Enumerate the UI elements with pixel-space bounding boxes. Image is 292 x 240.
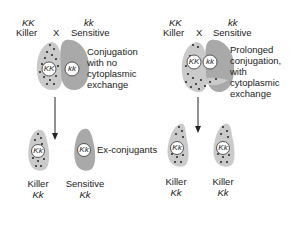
left-cross-symbol: X	[53, 28, 59, 38]
right-nucleus-sensitive: kk	[203, 57, 217, 67]
left-progeny1-phenotype: Killer	[22, 179, 54, 189]
left-progeny2-genotype: Kk	[64, 190, 106, 200]
right-process-line5: exchange	[230, 89, 271, 99]
left-parent2-phenotype: Sensitive	[71, 28, 110, 38]
right-process-line4: cytoplasmic	[230, 78, 280, 88]
right-progeny1-nucleus: Kk	[170, 143, 184, 153]
left-process-line3: cytoplasmic	[87, 69, 137, 79]
right-progeny1-phenotype: Killer	[160, 177, 192, 187]
left-progeny1-genotype: Kk	[22, 190, 54, 200]
left-process-line4: exchange	[87, 80, 128, 90]
ex-conjugants-label: Ex-conjugants	[97, 145, 157, 155]
right-parent1-phenotype: Killer	[163, 28, 184, 38]
left-nucleus-killer: KK	[42, 64, 56, 74]
right-cross-symbol: X	[196, 28, 202, 38]
left-progeny1-nucleus: Kk	[31, 146, 45, 156]
right-nucleus-killer: KK	[187, 57, 201, 67]
right-process-line2: conjugation,	[230, 56, 281, 66]
right-progeny2-genotype: Kk	[207, 188, 239, 198]
right-process-line1: Prolonged	[230, 45, 273, 55]
left-nucleus-sensitive: kk	[65, 64, 79, 74]
left-parent1-phenotype: Killer	[16, 28, 37, 38]
right-process-line3: with	[230, 67, 247, 77]
left-progeny2-nucleus: Kk	[77, 145, 91, 155]
right-progeny2-phenotype: Killer	[207, 177, 239, 187]
right-progeny1-genotype: Kk	[160, 188, 192, 198]
left-progeny2-phenotype: Sensitive	[64, 179, 106, 189]
right-progeny2-nucleus: Kk	[216, 143, 230, 153]
left-process-line1: Conjugation	[87, 47, 138, 57]
right-parent2-phenotype: Sensitive	[213, 28, 252, 38]
left-process-line2: with no	[87, 58, 117, 68]
